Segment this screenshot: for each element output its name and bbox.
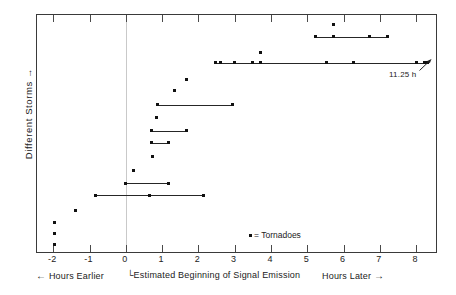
x-tick-top <box>235 15 236 22</box>
figure-chart-signal-emission: 11.25 h -2-1012345678 ← Hours Earlier └E… <box>0 0 456 295</box>
x-tick-top <box>53 15 54 22</box>
square-marker-icon <box>249 234 252 237</box>
x-tick-top <box>344 15 345 22</box>
storm-duration-line <box>315 37 388 38</box>
tornado-point <box>156 103 159 106</box>
caption-axis-title: └Estimated Beginning of Signal Emission <box>127 270 300 280</box>
tornado-point <box>150 129 153 132</box>
tornado-point <box>259 51 262 54</box>
x-tick-bottom <box>235 245 236 252</box>
annotation-11-25h: 11.25 h <box>389 70 417 79</box>
storm-duration-line <box>216 63 427 64</box>
zero-reference-line <box>126 15 127 252</box>
x-tick-top <box>162 15 163 22</box>
tornado-point <box>259 61 262 64</box>
tornado-point <box>167 182 170 185</box>
tornado-point <box>124 182 127 185</box>
x-tick-label: 5 <box>304 254 309 264</box>
tornado-point <box>332 35 335 38</box>
tornado-point <box>202 194 205 197</box>
x-tick-label: 6 <box>340 254 345 264</box>
x-axis-caption-row: ← Hours Earlier └Estimated Beginning of … <box>0 270 456 286</box>
tornado-point <box>74 209 77 212</box>
caption-hours-earlier-label: Hours Earlier <box>49 271 104 281</box>
x-tick-top <box>380 15 381 22</box>
storm-duration-line <box>158 105 233 106</box>
storm-duration-line <box>151 143 168 144</box>
tornado-point <box>167 141 170 144</box>
tornado-point <box>173 89 176 92</box>
caption-hours-earlier: ← Hours Earlier <box>36 270 104 281</box>
tornado-point <box>251 61 254 64</box>
tornado-point <box>233 61 236 64</box>
tornado-point <box>53 221 56 224</box>
tornado-point <box>155 116 158 119</box>
caption-axis-title-label: Estimated Beginning of Signal Emission <box>134 270 301 280</box>
x-tick-label: 7 <box>376 254 381 264</box>
x-tick-bottom <box>53 245 54 252</box>
y-axis-label-text: Different Storms <box>23 81 34 159</box>
storm-duration-line <box>151 131 187 132</box>
x-tick-bottom <box>307 245 308 252</box>
tornado-point <box>426 61 429 64</box>
tornado-point <box>185 78 188 81</box>
tornado-point <box>132 169 135 172</box>
x-tick-label: 1 <box>159 254 164 264</box>
x-tick-label: -2 <box>48 254 57 264</box>
x-tick-bottom <box>162 245 163 252</box>
caption-hours-later-label: Hours Later <box>322 271 371 281</box>
axis-origin-tick-icon: └ <box>127 270 134 280</box>
tornado-point <box>415 61 418 64</box>
tornado-point <box>150 141 153 144</box>
y-axis-label: Different Storms → <box>23 34 34 194</box>
x-tick-top <box>198 15 199 22</box>
arrow-left-icon: ← <box>36 270 46 281</box>
arrow-up-icon: → <box>23 68 34 78</box>
x-tick-top <box>307 15 308 22</box>
x-tick-label: 3 <box>231 254 236 264</box>
storm-duration-line <box>126 183 168 184</box>
tornado-point <box>53 243 56 246</box>
x-tick-bottom <box>380 245 381 252</box>
tornado-point <box>352 61 355 64</box>
x-tick-bottom <box>198 245 199 252</box>
tornado-point <box>219 61 222 64</box>
legend-label: = Tornadoes <box>254 230 301 240</box>
tornado-point <box>386 35 389 38</box>
x-tick-label: 2 <box>195 254 200 264</box>
x-tick-top <box>126 15 127 22</box>
x-tick-bottom <box>344 245 345 252</box>
x-tick-bottom <box>90 245 91 252</box>
x-tick-label: 4 <box>267 254 272 264</box>
x-tick-top <box>90 15 91 22</box>
tornado-point <box>214 61 217 64</box>
tornado-point <box>151 155 154 158</box>
tornado-point <box>231 103 234 106</box>
x-axis-tick-labels: -2-1012345678 <box>0 254 456 267</box>
tornado-point <box>94 194 97 197</box>
legend-tornadoes: = Tornadoes <box>249 230 301 240</box>
caption-hours-later: Hours Later → <box>322 270 384 281</box>
tornado-point <box>314 35 317 38</box>
x-tick-label: 8 <box>413 254 418 264</box>
tornado-point <box>368 35 371 38</box>
x-tick-top <box>416 15 417 22</box>
x-tick-label: 0 <box>122 254 127 264</box>
tornado-point <box>325 61 328 64</box>
arrow-right-icon: → <box>374 270 384 281</box>
plot-area <box>36 14 437 253</box>
tornado-point <box>53 232 56 235</box>
x-tick-label: -1 <box>84 254 93 264</box>
x-tick-bottom <box>271 245 272 252</box>
x-tick-bottom <box>126 245 127 252</box>
tornado-point <box>148 194 151 197</box>
x-tick-top <box>271 15 272 22</box>
tornado-point <box>185 129 188 132</box>
x-tick-bottom <box>416 245 417 252</box>
tornado-point <box>332 23 335 26</box>
